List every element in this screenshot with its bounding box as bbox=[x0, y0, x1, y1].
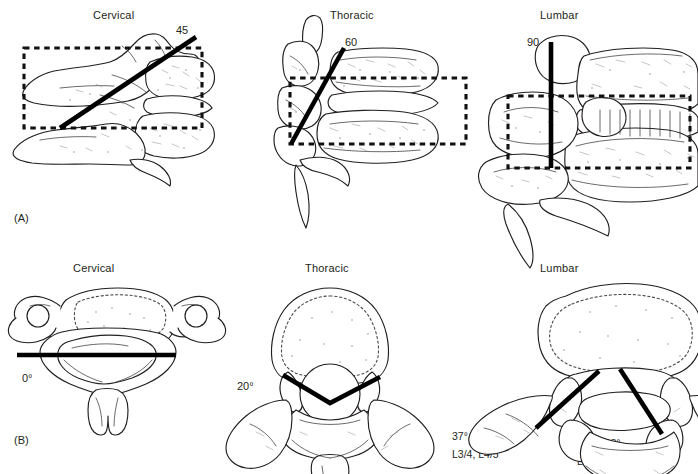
panel-b-lumbar-illustration bbox=[0, 0, 698, 474]
lumbar-axial-vertebra bbox=[469, 284, 698, 474]
